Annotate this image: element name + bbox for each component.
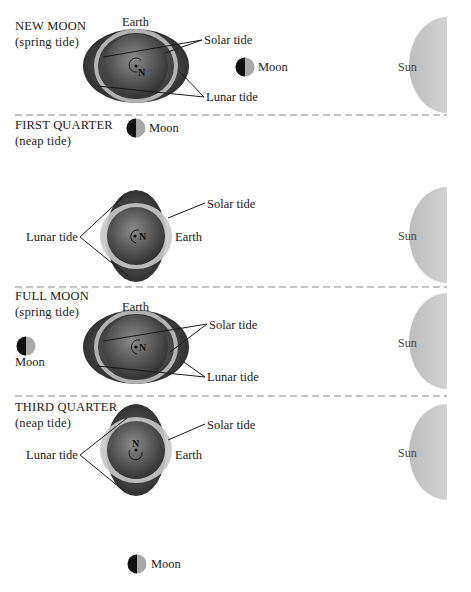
north-marker: N <box>138 67 146 78</box>
lunar-tide-label: Lunar tide <box>26 230 78 244</box>
lunar-tide-label: Lunar tide <box>206 90 258 104</box>
tide-type: (neap tide) <box>15 416 71 430</box>
moon-label: Moon <box>149 121 180 135</box>
moon-label: Moon <box>15 355 46 369</box>
panel-third-quarter: THIRD QUARTER (neap tide) N Solar tide L… <box>15 400 447 574</box>
panel-full-moon: FULL MOON (spring tide) Moon N Earth Sol… <box>15 289 447 389</box>
moon-label: Moon <box>151 557 182 571</box>
lunar-tide-label: Lunar tide <box>26 448 78 462</box>
phase-title: FIRST QUARTER <box>15 118 113 132</box>
tides-diagram: NEW MOON (spring tide) N Earth Solar tid… <box>0 0 471 592</box>
moon-icon <box>127 119 146 138</box>
moon-label: Moon <box>258 60 289 74</box>
tide-type: (spring tide) <box>15 35 79 49</box>
earth-label: Earth <box>175 448 203 462</box>
sun-label: Sun <box>398 229 417 243</box>
tide-type: (spring tide) <box>15 305 79 319</box>
lunar-tide-label: Lunar tide <box>207 370 259 384</box>
sun-label: Sun <box>398 446 417 460</box>
moon-icon <box>128 555 147 574</box>
phase-title: THIRD QUARTER <box>15 400 118 414</box>
solar-tide-label: Solar tide <box>209 318 258 332</box>
sun-label: Sun <box>398 336 417 350</box>
panel-first-quarter: FIRST QUARTER (neap tide) Moon N Solar t… <box>15 118 447 283</box>
earth-label: Earth <box>175 230 203 244</box>
solar-tide-label: Solar tide <box>207 418 256 432</box>
tide-type: (neap tide) <box>15 134 71 148</box>
earth-label: Earth <box>122 15 150 29</box>
solar-tide-label: Solar tide <box>204 33 253 47</box>
north-marker: N <box>132 438 140 449</box>
phase-title: NEW MOON <box>15 19 86 33</box>
moon-icon <box>236 58 255 77</box>
phase-title: FULL MOON <box>15 289 89 303</box>
earth-with-tides: N <box>83 310 189 384</box>
panel-new-moon: NEW MOON (spring tide) N Earth Solar tid… <box>15 15 447 113</box>
earth-with-tides: N <box>100 404 172 496</box>
sun-label: Sun <box>398 60 417 74</box>
earth-with-tides: N <box>83 29 189 103</box>
earth-label: Earth <box>122 300 150 314</box>
north-marker: N <box>139 231 147 242</box>
earth-with-tides: N <box>100 190 172 282</box>
north-marker: N <box>139 342 147 353</box>
solar-tide-label: Solar tide <box>207 197 256 211</box>
moon-icon <box>17 337 36 356</box>
